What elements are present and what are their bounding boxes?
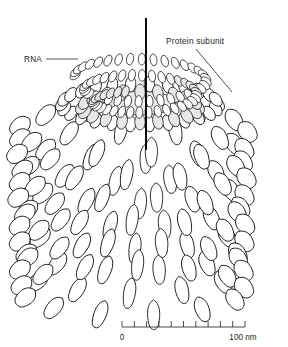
rna-bead — [126, 53, 135, 66]
scale-bar: 0 100 nm — [120, 321, 257, 342]
protein-subunit — [150, 183, 163, 213]
protein-subunit — [175, 207, 194, 237]
rna-bead — [102, 54, 114, 68]
protein-subunit — [191, 295, 213, 324]
scale-bar-start-label: 0 — [120, 333, 125, 342]
scale-bar-ticks — [122, 321, 245, 327]
protein-subunit — [147, 300, 160, 330]
protein-subunit — [124, 203, 140, 236]
protein-subunit — [95, 254, 116, 286]
virus-diagram-canvas: RNA Protein subunit 0 100 nm — [0, 0, 288, 347]
rna-label: RNA — [24, 55, 42, 64]
protein-subunit — [118, 158, 135, 190]
rna-bead — [170, 56, 181, 70]
scale-bar-end-label: 100 nm — [229, 333, 256, 342]
protein-subunit — [145, 137, 157, 167]
rna-bead — [113, 53, 123, 66]
rna-bead — [160, 54, 170, 67]
rna-bead — [149, 54, 158, 67]
rna-bead — [138, 53, 145, 65]
protein-subunit — [121, 277, 138, 309]
rna-bead — [138, 69, 145, 81]
virus-diagram-figure: RNA Protein subunit 0 100 nm — [0, 0, 288, 347]
rna-bead — [117, 69, 127, 82]
protein-subunit-label: Protein subunit — [166, 37, 225, 46]
protein-subunit — [89, 298, 111, 329]
protein-subunit — [40, 293, 67, 322]
protein-subunit — [98, 227, 119, 259]
protein-subunit — [152, 255, 166, 285]
